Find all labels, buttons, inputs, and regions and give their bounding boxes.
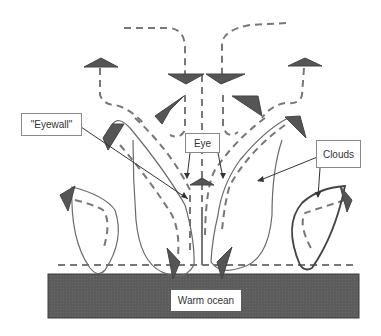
arrow-right-diag	[232, 96, 262, 116]
clouds-pointer-left	[258, 156, 320, 181]
flow-arrowheads	[60, 58, 352, 279]
right-small-cloud	[292, 186, 345, 269]
left-eyewall-cloud	[112, 121, 194, 276]
right-eyewall-cloud	[211, 118, 288, 270]
diagram-graphics	[0, 0, 381, 336]
arrow-top-left-up	[84, 58, 118, 67]
eyewall-label: "Eyewall"	[21, 113, 82, 136]
ocean-label: Warm ocean	[171, 290, 241, 311]
arrow-center-left-down	[168, 74, 204, 84]
clouds-label: Clouds	[316, 140, 361, 168]
arrow-small-left	[60, 186, 75, 211]
eye-label: Eye	[185, 133, 220, 153]
arrow-left-diag	[155, 96, 184, 124]
arrow-top-right-up	[288, 58, 322, 66]
hurricane-diagram: "Eyewall" Eye Clouds Warm ocean	[0, 0, 381, 336]
arrow-center-right-down	[206, 74, 245, 84]
arrow-eyewall-right	[285, 116, 306, 138]
